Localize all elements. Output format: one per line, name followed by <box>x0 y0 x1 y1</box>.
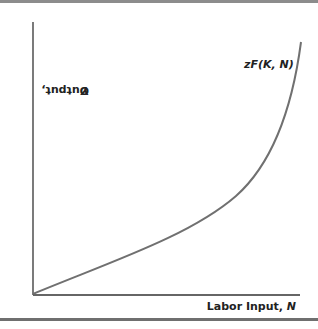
chart-plot <box>0 0 318 329</box>
x-axis-variable: N <box>287 300 296 313</box>
production-function-curve <box>33 42 301 294</box>
curve-label: zF(K, N) <box>244 58 294 71</box>
y-axis-variable: Y <box>81 84 89 97</box>
x-axis-label-text: Labor Input, <box>207 300 287 313</box>
y-axis-label: Output, Y <box>8 22 24 102</box>
bottom-rule <box>0 318 318 321</box>
x-axis-label: Labor Input, N <box>207 300 296 313</box>
